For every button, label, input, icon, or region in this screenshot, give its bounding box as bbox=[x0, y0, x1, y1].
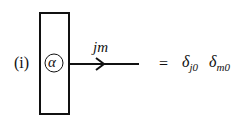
rhs-term-1: δj0 bbox=[182, 54, 198, 73]
rhs-term-2: δm0 bbox=[209, 54, 230, 73]
equals-sign: = bbox=[159, 56, 168, 72]
case-label: (i) bbox=[14, 55, 29, 71]
edge-label: jm bbox=[93, 40, 108, 55]
box-symbol: α bbox=[48, 55, 56, 70]
delta-subscript: j0 bbox=[189, 61, 198, 73]
delta-subscript: m0 bbox=[216, 61, 229, 73]
